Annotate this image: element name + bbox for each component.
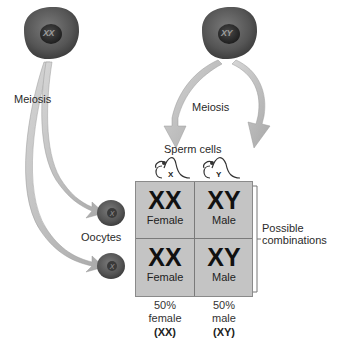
summary-female-genotype: (XX) [140, 326, 190, 338]
sperm-y-icon [204, 158, 240, 178]
summary-female: 50% female [140, 299, 190, 325]
meiosis-arrow-male-right [232, 60, 270, 148]
possible-combinations-label: Possible combinations [262, 222, 327, 246]
meiosis-label-male: Meiosis [192, 101, 229, 113]
grid-divider-horizontal [136, 238, 252, 239]
male-parent-genotype: XY [221, 28, 232, 38]
sperm-y-letter: Y [216, 170, 221, 179]
summary-male-genotype: (XY) [199, 326, 249, 338]
grid-divider-vertical [194, 182, 195, 296]
summary-male: 50% male [199, 299, 249, 325]
oocyte-bottom: X [97, 253, 125, 279]
female-parent-genotype: XX [43, 28, 54, 38]
punnett-square: XX Female XY Male XX Female XY Male [135, 181, 253, 297]
sperm-x-letter: X [168, 170, 173, 179]
punnett-cell-top-right: XY Male [195, 182, 253, 239]
oocyte-top: X [97, 200, 125, 226]
punnett-cell-bottom-right: XY Male [195, 239, 253, 296]
oocytes-label: Oocytes [81, 231, 121, 243]
meiosis-arrow-female-inner [42, 62, 104, 218]
sperm-cells-label: Sperm cells [164, 143, 221, 155]
svg-text:X: X [109, 210, 115, 217]
punnett-cell-bottom-left: XX Female [136, 239, 194, 296]
svg-text:X: X [109, 263, 115, 270]
punnett-cell-top-left: XX Female [136, 182, 194, 239]
combinations-bracket [253, 186, 261, 292]
meiosis-label-female: Meiosis [14, 93, 51, 105]
